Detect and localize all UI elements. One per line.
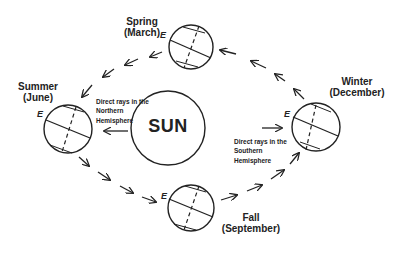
annotation-line: Southern (234, 146, 287, 155)
annotation-line: Hemisphere (234, 156, 287, 165)
equinox-marker-spring: E (160, 31, 166, 41)
season-label-winter: Winter (December) (322, 76, 392, 98)
season-name: Fall (216, 212, 286, 223)
annotation-line: Northern (96, 106, 149, 115)
seasons-diagram (0, 0, 400, 254)
annotation-southern-rays: Direct rays in the Southern Hemisphere (234, 137, 287, 165)
annotation-line: Direct rays in the (234, 137, 287, 146)
season-label-summer: Summer (June) (8, 81, 68, 103)
equinox-marker-winter: E (284, 110, 290, 120)
orbit-arrows-summer-to-fall (79, 157, 156, 202)
orbit-arrows-winter-to-spring (220, 50, 304, 99)
season-month: (June) (8, 92, 68, 103)
season-name: Summer (8, 81, 68, 92)
annotation-line: Hemisphere (96, 116, 149, 125)
orbit-arrows-spring-to-summer (82, 52, 162, 97)
season-month: (December) (322, 87, 392, 98)
annotation-northern-rays: Direct rays in the Northern Hemisphere (96, 97, 149, 125)
earth-globe-fall (168, 185, 214, 231)
equinox-marker-fall: E (161, 192, 167, 202)
season-name: Winter (322, 76, 392, 87)
equinox-marker-summer: E (37, 110, 43, 120)
season-label-fall: Fall (September) (216, 212, 286, 234)
season-month: (September) (216, 223, 286, 234)
earth-globe-spring (169, 25, 213, 69)
season-name: Spring (112, 16, 172, 27)
annotation-line: Direct rays in the (96, 97, 149, 106)
earth-globe-summer (44, 105, 92, 153)
earth-globe-winter (292, 103, 340, 151)
